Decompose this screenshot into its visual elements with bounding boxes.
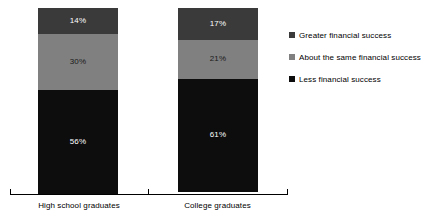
x-axis-tick xyxy=(148,189,149,194)
bar-group-college-graduates[interactable]: 17% 21% 61% xyxy=(178,8,258,194)
x-axis-category-label: College graduates xyxy=(148,201,287,210)
bar-group-high-school-graduates[interactable]: 14% 30% 56% xyxy=(38,8,118,194)
x-axis-line xyxy=(10,194,288,195)
legend: Greater financial success About the same… xyxy=(289,26,443,92)
bar-segment-greater-financial-success[interactable]: 17% xyxy=(178,8,258,40)
legend-item-label: About the same financial success xyxy=(299,53,421,62)
x-axis-category-label: High school graduates xyxy=(10,201,148,210)
bar-segment-value-label: 21% xyxy=(210,55,227,63)
legend-item-less-financial-success[interactable]: Less financial success xyxy=(289,70,443,88)
x-axis-tick xyxy=(287,189,288,194)
bar-segment-less-financial-success[interactable]: 61% xyxy=(178,79,258,192)
legend-item-label: Less financial success xyxy=(299,75,381,84)
bar-segment-about-the-same-financial-success[interactable]: 21% xyxy=(178,40,258,79)
legend-swatch-icon xyxy=(289,54,295,60)
plot-area: 14% 30% 56% 17% 21% 61% High sc xyxy=(0,0,290,223)
bar-segment-greater-financial-success[interactable]: 14% xyxy=(38,8,118,34)
bar-segment-about-the-same-financial-success[interactable]: 30% xyxy=(38,34,118,90)
bar-segment-value-label: 14% xyxy=(70,17,87,25)
bar-segment-value-label: 61% xyxy=(210,131,227,139)
legend-swatch-icon xyxy=(289,76,295,82)
bar-segment-value-label: 56% xyxy=(70,138,87,146)
bar-segment-value-label: 17% xyxy=(210,20,227,28)
bar-segment-value-label: 30% xyxy=(70,58,87,66)
stacked-bar-chart: 14% 30% 56% 17% 21% 61% High sc xyxy=(0,0,443,223)
legend-item-label: Greater financial success xyxy=(299,31,391,40)
x-axis-tick xyxy=(10,189,11,194)
legend-swatch-icon xyxy=(289,32,295,38)
legend-item-greater-financial-success[interactable]: Greater financial success xyxy=(289,26,443,44)
legend-item-about-the-same-financial-success[interactable]: About the same financial success xyxy=(289,48,443,66)
bar-segment-less-financial-success[interactable]: 56% xyxy=(38,90,118,194)
